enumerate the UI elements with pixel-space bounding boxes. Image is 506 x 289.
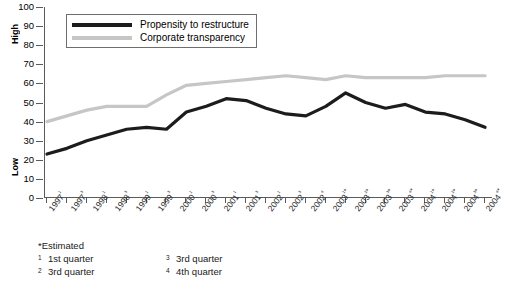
- y-tick-mark: [36, 179, 43, 180]
- legend-label-0: Propensity to restructure: [140, 19, 249, 30]
- footnote-item: 44th quarter: [166, 266, 222, 277]
- y-tick-label: 100: [8, 2, 34, 12]
- series-line: [47, 76, 485, 122]
- x-tick-mark: [285, 198, 286, 203]
- footnote-text: 3rd quarter: [176, 253, 222, 264]
- footnote-item: 23rd quarter: [38, 266, 166, 277]
- footnote-marker: 2: [38, 266, 48, 274]
- y-tick-mark: [36, 122, 43, 123]
- chart-legend: Propensity to restructure Corporate tran…: [66, 14, 257, 48]
- legend-label-1: Corporate transparency: [140, 32, 245, 43]
- y-tick-label: 60: [8, 78, 34, 88]
- y-tick-mark: [36, 198, 43, 199]
- y-tick-label: 0: [8, 193, 34, 203]
- y-axis-tick-labels: 0102030405060708090100: [8, 0, 34, 210]
- footnote-item: 11st quarter: [38, 253, 166, 264]
- footnote-item: 33rd quarter: [166, 253, 222, 264]
- footnote-text: 4th quarter: [176, 266, 222, 277]
- y-tick-mark: [36, 45, 43, 46]
- y-tick-mark: [36, 160, 43, 161]
- y-tick-label: 40: [8, 117, 34, 127]
- legend-swatch-light: [72, 36, 132, 40]
- footnote-marker: 4: [166, 266, 176, 274]
- y-tick-label: 90: [8, 21, 34, 31]
- y-tick-mark: [36, 83, 43, 84]
- footnote-marker: 1: [38, 253, 48, 261]
- footnote-grid: 11st quarter33rd quarter23rd quarter44th…: [38, 253, 222, 277]
- y-tick-label: 20: [8, 155, 34, 165]
- y-tick-label: 50: [8, 98, 34, 108]
- y-tick-mark: [36, 64, 43, 65]
- y-tick-label: 80: [8, 40, 34, 50]
- legend-item-1: Corporate transparency: [72, 31, 249, 44]
- y-tick-mark: [36, 103, 43, 104]
- legend-swatch-dark: [72, 23, 132, 27]
- footnote-estimated: *Estimated: [38, 240, 222, 251]
- footnotes: *Estimated 11st quarter33rd quarter23rd …: [38, 240, 222, 277]
- footnote-marker: 3: [166, 253, 176, 261]
- footnote-text: 1st quarter: [48, 253, 93, 264]
- footnote-text: 3rd quarter: [48, 266, 94, 277]
- y-tick-mark: [36, 26, 43, 27]
- y-tick-label: 10: [8, 174, 34, 184]
- legend-item-0: Propensity to restructure: [72, 18, 249, 31]
- y-tick-mark: [36, 7, 43, 8]
- y-tick-label: 30: [8, 136, 34, 146]
- y-tick-mark: [36, 141, 43, 142]
- x-tick-mark: [66, 198, 67, 203]
- y-tick-label: 70: [8, 59, 34, 69]
- series-line: [47, 93, 485, 154]
